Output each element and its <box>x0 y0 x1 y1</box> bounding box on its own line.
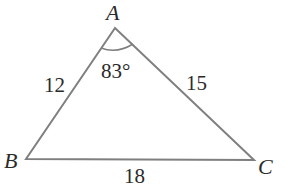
angle-label-a: 83° <box>101 59 130 83</box>
vertex-label-a: A <box>104 0 120 25</box>
side-label-bc: 18 <box>124 164 145 188</box>
side-label-ab: 12 <box>44 73 65 97</box>
angle-arc-a <box>101 44 133 50</box>
vertex-label-b: B <box>4 148 17 173</box>
side-label-ac: 15 <box>186 71 207 95</box>
vertex-label-c: C <box>258 154 273 179</box>
triangle-diagram: A B C 12 15 18 83° <box>0 0 297 194</box>
